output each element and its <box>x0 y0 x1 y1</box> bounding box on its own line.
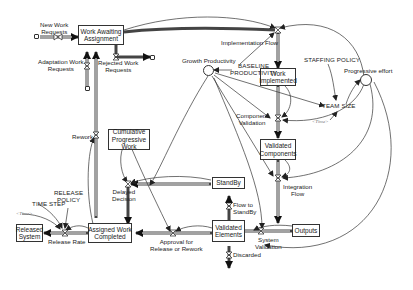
stock-validated-components[interactable]: Validated Components <box>260 139 296 160</box>
source-cloud-new-work <box>34 34 39 39</box>
flow-label-implementation-flow: Implementation Flow <box>221 39 278 46</box>
stock-released-system[interactable]: Released System <box>16 224 43 242</box>
aux-label-time-shadow-release: <Time> <box>16 210 32 217</box>
aux-label-release-policy: RELEASE POLICY <box>54 189 83 203</box>
aux-label-progressive-effort: Progressive effort <box>344 67 392 74</box>
source-cloud-adaptation <box>85 86 90 91</box>
aux-label-growth-productivity: Growth Productivity <box>182 57 236 64</box>
stock-work-awaiting-assignment[interactable]: Work Awaiting Assignment <box>78 25 124 45</box>
sink-cloud-rejected <box>150 55 155 60</box>
flow-label-discarded: Discarded <box>233 251 261 258</box>
aux-progressive-effort-node[interactable] <box>360 74 372 86</box>
aux-label-time-shadow-team: <Time> <box>312 118 328 125</box>
aux-label-baseline-productivity: BASELINE PRODUCTIVITY <box>230 62 277 76</box>
stock-standby[interactable]: StandBy <box>212 177 245 189</box>
flow-label-new-work-requests: New Work Requests <box>40 21 68 35</box>
flow-label-rework: Rework <box>72 133 93 140</box>
flow-label-integration-flow: Integration Flow <box>283 183 312 197</box>
flow-label-component-validation: Component Validation <box>236 112 268 126</box>
flow-label-adaptation-work-requests: Adaptation Work Requests <box>38 58 84 72</box>
stock-cumulative-progressive-work[interactable]: Cumulative Progressive Work <box>108 129 150 150</box>
flow-label-rejected-work-requests: Rejected Work Requests <box>98 59 138 73</box>
aux-label-staffing-policy: STAFFING POLICY <box>304 56 360 63</box>
stock-outputs[interactable]: Outputs <box>292 224 320 237</box>
aux-growth-productivity-node[interactable] <box>203 65 214 76</box>
stock-assigned-work-completed[interactable]: Assigned Work Completed <box>88 223 132 243</box>
stock-validated-elements[interactable]: Validated Elements <box>212 220 245 242</box>
diagram-canvas <box>0 0 413 290</box>
flow-label-system-validation: System Validation <box>255 236 282 250</box>
aux-label-team-size: TEAM SIZE <box>322 102 356 109</box>
flow-label-delayed-decision: Delayed Decision <box>112 188 136 202</box>
flow-label-release-rate: Release Rate <box>48 238 86 245</box>
flow-label-approval-release-rework: Approval for Release or Rework <box>150 238 203 252</box>
flow-label-flow-to-standby: Flow to StandBy <box>233 201 256 215</box>
